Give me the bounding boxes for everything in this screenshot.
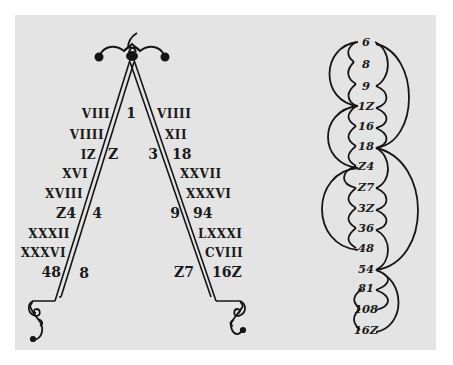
inner-label: 3 — [148, 146, 158, 162]
winged-finial-icon — [96, 33, 169, 61]
series-value: 16Z — [354, 323, 379, 337]
series-value: 18 — [358, 139, 374, 153]
series-value: 3Z — [358, 201, 375, 215]
right-label: LXXXI — [198, 227, 242, 241]
inner-label: 1 — [126, 105, 136, 121]
right-label: XII — [165, 128, 187, 142]
lambdoma-diagram: VIII VIIII IZ XVI XVIII Z4 XXXII XXXVI 4… — [0, 0, 453, 365]
left-label: Z4 — [56, 205, 76, 221]
inner-label: 4 — [92, 205, 102, 221]
series-value: 108 — [354, 302, 378, 316]
series-value: Z7 — [357, 180, 374, 194]
left-label: XVI — [62, 167, 88, 181]
right-label: XXXVI — [186, 187, 231, 201]
inner-label: 8 — [79, 265, 89, 281]
right-label: 18 — [172, 146, 191, 162]
series-value: 16 — [358, 119, 374, 133]
series-value: 8 — [362, 57, 370, 71]
left-label: VIII — [81, 107, 110, 121]
right-label: VIIII — [156, 107, 191, 121]
series-value: 1Z — [358, 99, 375, 113]
right-label: 94 — [193, 205, 213, 221]
left-label: IZ — [81, 148, 96, 162]
inner-label: Z7 — [174, 264, 194, 280]
inner-label: Z — [108, 146, 118, 162]
left-label: XVIII — [45, 187, 83, 201]
scroll-foot-icon — [29, 301, 42, 341]
right-label: CVIII — [205, 246, 243, 260]
series-value: 36 — [358, 221, 374, 235]
inner-label: 9 — [170, 205, 180, 221]
left-label: XXXVI — [21, 246, 66, 260]
series-value: Z4 — [357, 159, 374, 173]
lambda-figure: VIII VIIII IZ XVI XVIII Z4 XXXII XXXVI 4… — [21, 33, 246, 341]
series-column: 6 8 9 1Z 16 18 Z4 Z7 3Z 36 48 54 81 108 … — [322, 35, 418, 337]
left-label: VIIII — [69, 128, 104, 142]
series-value: 48 — [358, 241, 374, 255]
series-value: 54 — [358, 262, 374, 276]
left-label: XXXII — [28, 227, 70, 241]
right-label: 16Z — [212, 264, 242, 280]
left-label: 48 — [42, 264, 61, 280]
series-value: 9 — [362, 79, 370, 93]
series-value: 6 — [362, 35, 370, 49]
right-label: XXVII — [180, 167, 222, 181]
series-value: 81 — [358, 281, 374, 295]
